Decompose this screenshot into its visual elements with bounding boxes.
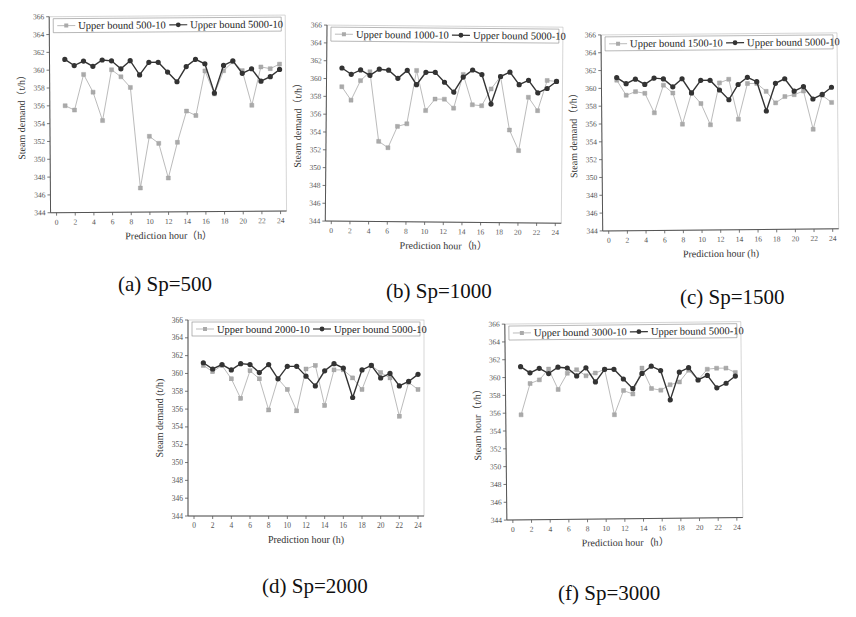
x-tick-label: 0 (607, 236, 611, 245)
legend-label-baseline: Upper bound 5000-10 (747, 36, 840, 48)
legend-label-compare: Upper bound 500-10 (78, 19, 166, 31)
data-point (109, 58, 114, 63)
y-tick-label: 356 (489, 409, 501, 418)
data-point (415, 68, 419, 72)
data-point (229, 367, 234, 372)
data-point (193, 57, 198, 62)
y-tick-label: 362 (310, 56, 322, 65)
data-point (545, 78, 549, 82)
y-tick-label: 360 (585, 84, 597, 93)
data-point (554, 79, 559, 84)
data-point (424, 109, 428, 113)
series-compare (519, 365, 738, 418)
x-tick-label: 6 (663, 235, 667, 244)
data-point (268, 67, 272, 71)
data-point (157, 141, 161, 145)
data-point (575, 368, 579, 372)
chart-panel-c: 3443463483503523543563583603623643660246… (565, 23, 847, 275)
y-tick-label: 358 (33, 84, 45, 93)
data-point (593, 371, 597, 375)
data-point (727, 77, 731, 81)
data-point (250, 103, 254, 107)
x-tick-label: 8 (129, 217, 133, 226)
x-tick-label: 14 (736, 235, 744, 244)
data-point (388, 376, 392, 380)
data-point (829, 85, 834, 90)
y-tick-label: 356 (585, 120, 597, 129)
x-tick-label: 22 (714, 523, 722, 532)
data-point (359, 79, 363, 83)
data-point (249, 66, 254, 71)
x-tick-label: 20 (514, 228, 522, 237)
y-tick-label: 360 (310, 74, 322, 83)
data-point (643, 91, 647, 95)
series-baseline (614, 73, 834, 115)
data-point (101, 119, 105, 123)
y-tick-label: 366 (311, 20, 323, 29)
data-point (259, 65, 263, 69)
x-tick-label: 4 (92, 217, 96, 226)
data-point (386, 146, 390, 150)
y-tick-label: 344 (491, 516, 503, 525)
data-point (387, 371, 392, 376)
data-point (165, 69, 170, 74)
data-point (652, 111, 656, 115)
x-axis-title: Prediction hour (h) (683, 248, 759, 261)
data-point (367, 73, 372, 78)
x-tick-label: 20 (240, 216, 248, 225)
y-tick-label: 352 (490, 444, 502, 453)
x-tick-label: 14 (458, 227, 466, 236)
data-point (442, 97, 446, 101)
data-point (386, 68, 391, 73)
panel-caption: (f) Sp=3000 (558, 581, 660, 606)
x-tick-label: 8 (404, 227, 408, 236)
x-tick-label: 24 (277, 216, 285, 225)
data-point (379, 371, 383, 375)
x-axis-title: Prediction hour（h） (125, 230, 212, 242)
y-tick-label: 348 (490, 480, 502, 489)
y-tick-label: 348 (309, 181, 321, 190)
data-point (247, 362, 252, 367)
x-tick-label: 6 (567, 524, 571, 533)
legend-label-baseline: Upper bound 5000-10 (334, 324, 427, 335)
y-tick-label: 366 (489, 320, 501, 329)
data-point (442, 80, 447, 85)
y-tick-label: 344 (586, 226, 598, 235)
data-point (782, 76, 787, 81)
data-point (489, 87, 493, 91)
legend-label-baseline: Upper bound 5000-10 (190, 19, 283, 31)
x-tick-label: 8 (682, 235, 686, 244)
data-point (73, 108, 77, 112)
data-point (128, 58, 133, 63)
y-tick-label: 362 (33, 48, 45, 57)
data-point (651, 75, 656, 80)
plot-area (505, 322, 743, 520)
y-tick-label: 348 (172, 476, 184, 485)
data-point (584, 374, 588, 378)
panel-caption: (a) Sp=500 (118, 272, 212, 297)
y-tick-label: 346 (309, 199, 321, 208)
data-point (240, 71, 245, 76)
data-point (285, 387, 289, 391)
legend-label-compare: Upper bound 1000-10 (356, 29, 449, 41)
data-point (726, 97, 731, 102)
x-tick-label: 18 (495, 228, 503, 237)
panel-caption: (c) Sp=1500 (680, 285, 785, 310)
data-point (395, 124, 399, 128)
data-point (537, 366, 542, 371)
x-tick-label: 20 (377, 521, 385, 530)
data-point (707, 78, 712, 83)
data-point (715, 366, 719, 370)
data-point (323, 404, 327, 408)
data-point (267, 408, 271, 412)
data-point (294, 364, 299, 369)
data-point (322, 368, 327, 373)
y-tick-label: 344 (309, 216, 321, 225)
x-tick-label: 24 (733, 523, 741, 532)
y-axis-title: Steam demand（t/h） (16, 70, 28, 160)
data-point (668, 397, 673, 402)
data-point (670, 84, 675, 89)
data-point (461, 74, 466, 79)
y-axis-title: Steam demand（t/h） (567, 88, 579, 178)
data-point (397, 383, 402, 388)
